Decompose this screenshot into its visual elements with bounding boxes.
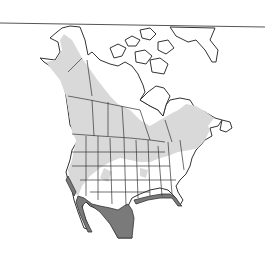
north-america-map — [0, 0, 265, 255]
range-map — [0, 0, 265, 255]
top-border-line — [0, 23, 265, 27]
